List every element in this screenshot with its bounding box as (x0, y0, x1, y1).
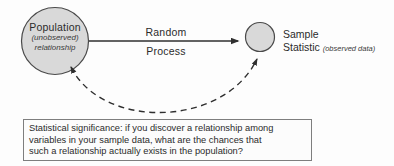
sample-title-line2-row: Statistic (observed data) (283, 41, 375, 55)
caption-box: Statistical significance: if you discove… (23, 119, 312, 161)
process-arrow-label-top: Random (130, 26, 202, 38)
sample-node-label: Sample Statistic (observed data) (283, 28, 375, 55)
sample-annotation: (observed data) (323, 44, 376, 53)
process-arrow-label-bottom: Process (130, 45, 202, 57)
population-subtitle-line1: (unobserved) (20, 33, 90, 43)
caption-line-1: Statistical significance: if you discove… (29, 123, 306, 135)
population-subtitle-line2: relationship (20, 43, 90, 53)
sample-title-line1: Sample (283, 28, 375, 41)
significance-question-arc (71, 59, 257, 113)
population-node-label: Population (unobserved) relationship (20, 21, 90, 53)
caption-line-2: variables in your sample data, what are … (29, 135, 306, 147)
caption-line-3: such a relationship actually exists in t… (29, 146, 306, 158)
sample-title-line2: Statistic (283, 41, 320, 53)
population-title: Population (20, 21, 90, 33)
sample-statistic-circle (246, 23, 275, 52)
diagram-canvas: Population (unobserved) relationship Ran… (0, 0, 394, 166)
